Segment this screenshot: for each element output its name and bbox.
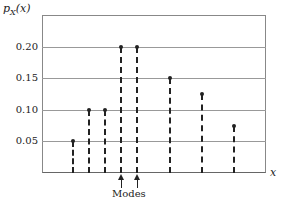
ylabel: pX(x) [3, 2, 31, 17]
stem-marker [103, 108, 107, 112]
stem [120, 47, 122, 173]
gridline [42, 110, 266, 111]
y-tick-label: 0.05 [0, 136, 38, 146]
stem [104, 110, 106, 173]
stem [72, 141, 74, 173]
stem-marker [135, 45, 139, 49]
y-tick-label: 0.20 [0, 42, 38, 52]
y-tick-label: 0.10 [0, 105, 38, 115]
stem-marker [168, 76, 172, 80]
xlabel: x [270, 166, 276, 179]
modes-annotation: Modes [112, 188, 146, 199]
stem-marker [119, 45, 123, 49]
stem [88, 110, 90, 173]
stem [169, 78, 171, 173]
y-tick-label: 0.15 [0, 73, 38, 83]
stem-marker [200, 92, 204, 96]
stem-marker [71, 139, 75, 143]
gridline [42, 78, 266, 79]
stem [201, 94, 203, 173]
stem [233, 126, 235, 173]
stem-marker [232, 124, 236, 128]
mode-arrowhead-2 [134, 174, 140, 180]
mode-arrowhead-1 [118, 174, 124, 180]
stem [136, 47, 138, 173]
gridline [42, 47, 266, 48]
stem-marker [87, 108, 91, 112]
